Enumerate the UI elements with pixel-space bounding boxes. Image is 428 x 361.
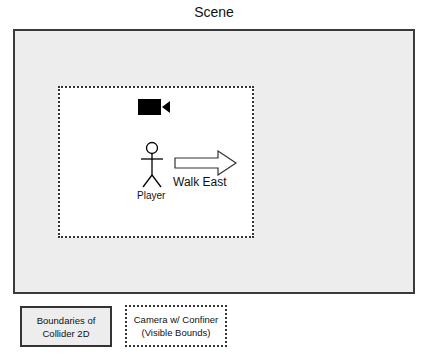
legend-camera-line1: Camera w/ Confiner: [134, 313, 218, 326]
walk-east-label: Walk East: [173, 175, 227, 189]
arrow-right-outline-icon: [174, 150, 238, 176]
legend-camera-line2: (Visible Bounds): [134, 326, 218, 339]
legend-collider-line1: Boundaries of: [37, 314, 96, 327]
legend-collider-boundaries: Boundaries of Collider 2D: [20, 306, 112, 347]
video-camera-icon: [138, 98, 174, 116]
scene-title: Scene: [0, 4, 428, 20]
legend-collider-line2: Collider 2D: [37, 327, 96, 340]
stick-figure-icon: [140, 141, 164, 189]
legend-camera-confiner: Camera w/ Confiner (Visible Bounds): [125, 305, 227, 347]
player-label: Player: [137, 190, 165, 201]
